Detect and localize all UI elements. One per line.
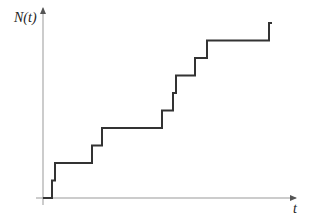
y-axis-label: N(t) [13,10,37,26]
step-function-line [43,23,272,198]
x-axis-label: t [293,201,298,216]
counting-process-diagram: N(t) t [0,0,312,219]
